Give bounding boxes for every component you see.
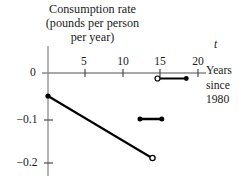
chart-plot-area	[0, 0, 243, 176]
secant-main-end-point	[150, 155, 155, 160]
secant-middle-end-point	[159, 117, 164, 122]
secant-main-start-point	[45, 93, 50, 98]
secant-upper-start-point	[155, 76, 160, 81]
secant-middle-start-point	[138, 117, 143, 122]
secant-line-main	[48, 96, 152, 158]
secant-upper-end-point	[184, 76, 189, 81]
